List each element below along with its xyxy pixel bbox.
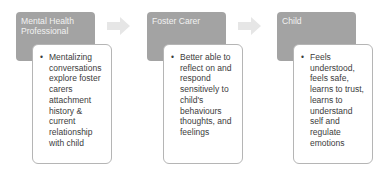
stage-mental-health-professional: Mental Health Professional Mentalizing c… bbox=[16, 0, 116, 173]
arrow-right-icon bbox=[238, 17, 261, 35]
bullet-list: Better able to reflect on and respond se… bbox=[170, 52, 238, 138]
stage-body: Feels understood, feels safe, learns to … bbox=[293, 44, 373, 164]
process-diagram: Mental Health Professional Mentalizing c… bbox=[0, 0, 388, 173]
bullet-item: Better able to reflect on and respond se… bbox=[180, 52, 238, 138]
bullet-item: Mentalizing conversations explore foster… bbox=[49, 52, 107, 148]
bullet-list: Feels understood, feels safe, learns to … bbox=[300, 52, 368, 148]
bullet-list: Mentalizing conversations explore foster… bbox=[39, 52, 107, 148]
stage-foster-carer: Foster Carer Better able to reflect on a… bbox=[147, 0, 247, 173]
stage-child: Child Feels understood, feels safe, lear… bbox=[277, 0, 377, 173]
bullet-item: Feels understood, feels safe, learns to … bbox=[310, 52, 368, 148]
arrow-right-icon bbox=[107, 17, 130, 35]
stage-body: Mentalizing conversations explore foster… bbox=[32, 44, 112, 164]
stage-body: Better able to reflect on and respond se… bbox=[163, 44, 243, 164]
